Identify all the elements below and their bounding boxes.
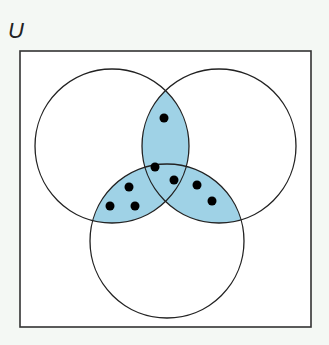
element-dot	[193, 181, 202, 190]
element-dot	[125, 183, 134, 192]
element-dot	[170, 176, 179, 185]
element-dot	[131, 202, 140, 211]
element-dot	[106, 202, 115, 211]
element-dot	[160, 114, 169, 123]
venn-diagram	[0, 0, 329, 345]
element-dot	[208, 197, 217, 206]
element-dot	[151, 163, 160, 172]
